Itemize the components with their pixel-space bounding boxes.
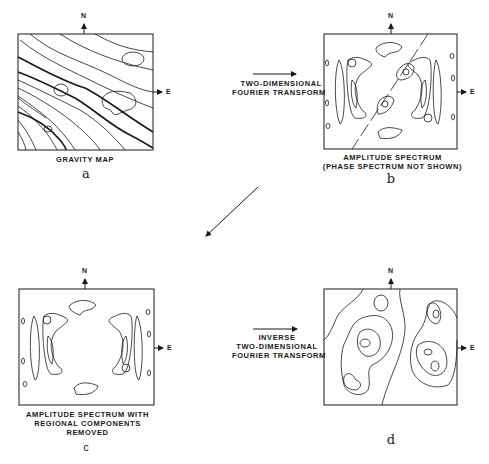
east-label-b: E: [470, 88, 475, 95]
transform-arrows: [206, 74, 297, 329]
panel-a-gravity-map: [18, 34, 153, 150]
east-label-a: E: [166, 88, 171, 95]
north-label-a: N: [81, 12, 86, 19]
inverse-transform-label: INVERSE TWO-DIMENSIONAL FOURIER TRANSFOR…: [232, 333, 322, 360]
diagram-canvas: [0, 0, 489, 464]
north-label-c: N: [82, 267, 87, 274]
east-label-c: E: [167, 344, 172, 351]
panel-b-amplitude-spectrum: [324, 34, 457, 149]
diagonal-arrow: [206, 187, 258, 236]
forward-transform-label: TWO-DIMENSIONAL FOURIER TRANSFORM: [232, 79, 322, 97]
north-label-d: N: [388, 267, 393, 274]
panel-d-residual-map: [324, 289, 457, 405]
panel-letter-b: b: [381, 171, 401, 186]
east-label-d: E: [470, 344, 475, 351]
caption-a: GRAVITY MAP: [35, 155, 135, 164]
north-label-b: N: [388, 12, 393, 19]
panel-letter-c: c: [76, 441, 96, 453]
caption-c: AMPLITUDE SPECTRUM WITH REGIONAL COMPONE…: [10, 410, 165, 437]
panel-letter-a: a: [76, 166, 96, 181]
caption-b: AMPLITUDE SPECTRUM (PHASE SPECTRUM NOT S…: [315, 153, 470, 171]
panel-letter-d: d: [381, 432, 401, 447]
panel-c-filtered-spectrum: [19, 289, 154, 405]
